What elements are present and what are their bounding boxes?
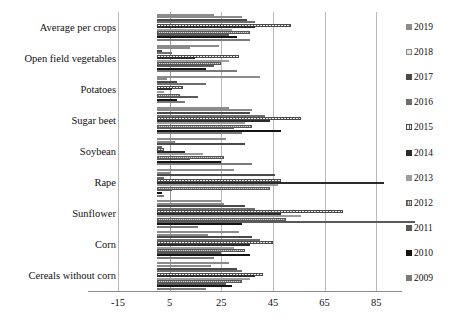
bar bbox=[157, 163, 253, 165]
bar bbox=[157, 132, 242, 134]
x-tick-label: 25 bbox=[201, 297, 241, 308]
legend-swatch-2013 bbox=[406, 175, 412, 181]
x-tick-label: 65 bbox=[305, 297, 345, 308]
legend-label: 2018 bbox=[414, 47, 433, 57]
legend-item[interactable]: 2015 bbox=[406, 115, 451, 140]
legend-label: 2019 bbox=[414, 22, 433, 32]
category-label: Soybean bbox=[0, 146, 116, 157]
legend-swatch-2012 bbox=[406, 200, 412, 206]
legend-item[interactable]: 2017 bbox=[406, 64, 451, 89]
legend-label: 2013 bbox=[414, 173, 433, 183]
legend-item[interactable]: 2016 bbox=[406, 90, 451, 115]
bar bbox=[157, 195, 165, 197]
legend-label: 2011 bbox=[414, 223, 433, 233]
legend-swatch-2019 bbox=[406, 24, 412, 30]
bar-group bbox=[118, 74, 402, 105]
legend-swatch-2014 bbox=[406, 150, 412, 156]
bar bbox=[157, 143, 245, 145]
x-tick-label: -15 bbox=[98, 297, 138, 308]
category-label: Open field vegetables bbox=[0, 53, 116, 64]
bar bbox=[157, 70, 237, 72]
bar bbox=[157, 288, 206, 290]
bar bbox=[157, 257, 214, 259]
legend-swatch-2011 bbox=[406, 225, 412, 231]
legend-label: 2009 bbox=[414, 273, 433, 283]
bar-group bbox=[118, 261, 402, 292]
legend: 2019201820172016201520142013201220112010… bbox=[406, 14, 451, 291]
legend-swatch-2009 bbox=[406, 275, 412, 281]
bar bbox=[157, 226, 198, 228]
bar-group bbox=[118, 136, 402, 167]
x-tick-label: 45 bbox=[253, 297, 293, 308]
legend-item[interactable]: 2012 bbox=[406, 190, 451, 215]
legend-item[interactable]: 2013 bbox=[406, 165, 451, 190]
legend-item[interactable]: 2010 bbox=[406, 241, 451, 266]
bar-group bbox=[118, 168, 402, 199]
bar-group bbox=[118, 230, 402, 261]
legend-label: 2015 bbox=[414, 122, 433, 132]
legend-label: 2010 bbox=[414, 248, 433, 258]
x-tick-label: 5 bbox=[150, 297, 190, 308]
plot-area bbox=[118, 12, 402, 292]
bar-group bbox=[118, 105, 402, 136]
category-label: Cereals without corn bbox=[0, 270, 116, 281]
bar bbox=[157, 39, 250, 41]
x-axis-line-extension bbox=[88, 291, 118, 292]
legend-item[interactable]: 2019 bbox=[406, 14, 451, 39]
legend-swatch-2010 bbox=[406, 250, 412, 256]
legend-swatch-2016 bbox=[406, 99, 412, 105]
legend-label: 2016 bbox=[414, 97, 433, 107]
category-label: Average per crops bbox=[0, 22, 116, 33]
x-tick-label: 85 bbox=[356, 297, 396, 308]
bar bbox=[157, 101, 185, 103]
bar-group bbox=[118, 199, 402, 230]
bar-group bbox=[118, 12, 402, 43]
legend-swatch-2015 bbox=[406, 124, 412, 130]
category-label: Sunflower bbox=[0, 208, 116, 219]
legend-label: 2012 bbox=[414, 198, 433, 208]
legend-swatch-2017 bbox=[406, 74, 412, 80]
legend-item[interactable]: 2011 bbox=[406, 216, 451, 241]
legend-item[interactable]: 2014 bbox=[406, 140, 451, 165]
bar-group bbox=[118, 43, 402, 74]
category-label: Rape bbox=[0, 177, 116, 188]
legend-swatch-2018 bbox=[406, 49, 412, 55]
bar bbox=[157, 174, 276, 176]
legend-label: 2017 bbox=[414, 72, 433, 82]
category-label: Corn bbox=[0, 239, 116, 250]
bar bbox=[157, 187, 271, 190]
bar-chart: Average per cropsOpen field vegetablesPo… bbox=[0, 0, 451, 323]
category-label: Sugar beet bbox=[0, 115, 116, 126]
bar bbox=[157, 76, 260, 78]
legend-item[interactable]: 2018 bbox=[406, 39, 451, 64]
legend-label: 2014 bbox=[414, 148, 433, 158]
category-label: Potatoes bbox=[0, 84, 116, 95]
legend-item[interactable]: 2009 bbox=[406, 266, 451, 291]
